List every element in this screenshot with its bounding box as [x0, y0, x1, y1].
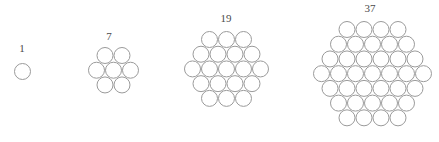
figure-label-37: 37 — [365, 2, 376, 14]
packing-circle — [339, 110, 355, 126]
packing-circle — [226, 76, 242, 92]
packing-circle — [113, 47, 129, 63]
packing-circle — [330, 36, 346, 52]
packing-circle — [356, 51, 372, 67]
figure-label-7: 7 — [106, 30, 112, 42]
packing-circle — [398, 66, 414, 82]
packing-circle — [97, 77, 113, 93]
packing-circle — [372, 80, 388, 96]
packing-circle — [372, 110, 388, 126]
packing-circle — [364, 95, 380, 111]
packing-circle — [330, 66, 346, 82]
packing-circle — [97, 47, 113, 63]
packing-circle — [235, 31, 251, 47]
packing-circle — [322, 80, 338, 96]
packing-circle — [406, 51, 422, 67]
hexagon-figure-37 — [312, 20, 433, 127]
circle-packing — [13, 62, 32, 81]
packing-circle — [398, 36, 414, 52]
packing-circle — [381, 66, 397, 82]
hexagon-figure-1 — [13, 62, 32, 81]
packing-circle — [105, 62, 121, 78]
packing-circle — [113, 77, 129, 93]
packing-circle — [122, 62, 138, 78]
figure-label-1: 1 — [19, 42, 25, 54]
packing-circle — [389, 21, 405, 37]
packing-circle — [201, 61, 217, 77]
packing-circle — [218, 61, 234, 77]
packing-circle — [356, 110, 372, 126]
packing-circle — [389, 110, 405, 126]
packing-circle — [415, 66, 431, 82]
packing-circle — [235, 90, 251, 106]
circle-packing — [312, 20, 433, 127]
packing-circle — [347, 36, 363, 52]
packing-circle — [235, 61, 251, 77]
packing-circle — [347, 95, 363, 111]
packing-circle — [339, 51, 355, 67]
packing-circle — [210, 76, 226, 92]
packing-circle — [339, 80, 355, 96]
packing-circle — [14, 64, 30, 80]
diagram-canvas: 171937 — [0, 0, 439, 142]
hexagon-figure-7 — [87, 46, 140, 94]
circle-packing — [87, 46, 140, 94]
packing-circle — [201, 31, 217, 47]
packing-circle — [364, 66, 380, 82]
packing-circle — [389, 80, 405, 96]
packing-circle — [226, 46, 242, 62]
hexagon-figure-19 — [183, 30, 270, 108]
packing-circle — [356, 21, 372, 37]
packing-circle — [356, 80, 372, 96]
packing-circle — [372, 21, 388, 37]
packing-circle — [193, 46, 209, 62]
packing-circle — [381, 95, 397, 111]
packing-circle — [364, 36, 380, 52]
packing-circle — [347, 66, 363, 82]
packing-circle — [372, 51, 388, 67]
packing-circle — [252, 61, 268, 77]
packing-circle — [398, 95, 414, 111]
circle-packing — [183, 30, 270, 108]
packing-circle — [201, 90, 217, 106]
packing-circle — [313, 66, 329, 82]
figure-label-19: 19 — [221, 12, 232, 24]
packing-circle — [218, 31, 234, 47]
packing-circle — [322, 51, 338, 67]
packing-circle — [218, 90, 234, 106]
packing-circle — [406, 80, 422, 96]
packing-circle — [339, 21, 355, 37]
packing-circle — [381, 36, 397, 52]
packing-circle — [184, 61, 200, 77]
packing-circle — [210, 46, 226, 62]
packing-circle — [243, 76, 259, 92]
packing-circle — [193, 76, 209, 92]
packing-circle — [389, 51, 405, 67]
packing-circle — [330, 95, 346, 111]
packing-circle — [88, 62, 104, 78]
packing-circle — [243, 46, 259, 62]
